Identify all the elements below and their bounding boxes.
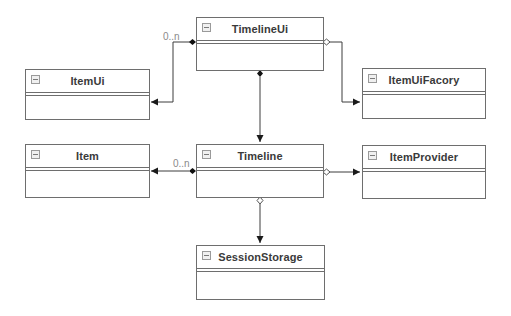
open-diamond-icon bbox=[323, 169, 330, 175]
class-name: ItemUi bbox=[26, 75, 149, 87]
class-header: Timeline bbox=[197, 145, 323, 168]
filled-diamond-icon bbox=[257, 70, 263, 77]
open-diamond-icon bbox=[257, 197, 263, 204]
class-timeline[interactable]: Timeline bbox=[196, 144, 324, 198]
connector-timeline-itemprovider[interactable] bbox=[323, 169, 360, 175]
attributes-compartment bbox=[197, 168, 323, 171]
multiplicity-label-timelineui-itemui: 0..n bbox=[163, 31, 180, 42]
class-sessionstorage[interactable]: SessionStorage bbox=[196, 245, 325, 300]
filled-diamond-icon bbox=[189, 39, 196, 45]
connector-timeline-sessionstorage[interactable] bbox=[257, 197, 263, 243]
attributes-compartment bbox=[26, 168, 149, 171]
attributes-compartment bbox=[197, 41, 323, 44]
attributes-compartment bbox=[26, 93, 149, 96]
class-header: ItemProvider bbox=[363, 146, 485, 169]
class-header: ItemUiFacory bbox=[363, 69, 485, 92]
class-itemprovider[interactable]: ItemProvider bbox=[362, 145, 486, 199]
class-itemuifacory[interactable]: ItemUiFacory bbox=[362, 68, 486, 119]
filled-diamond-icon bbox=[189, 168, 196, 174]
class-header: Item bbox=[26, 145, 149, 168]
open-diamond-icon bbox=[323, 39, 330, 45]
attributes-compartment bbox=[197, 269, 324, 272]
class-name: SessionStorage bbox=[197, 251, 324, 263]
class-item[interactable]: Item bbox=[25, 144, 150, 198]
attributes-compartment bbox=[363, 92, 485, 95]
class-header: TimelineUi bbox=[197, 18, 323, 41]
multiplicity-label-timeline-item: 0..n bbox=[173, 158, 190, 169]
connector-timelineui-timeline[interactable] bbox=[257, 70, 263, 142]
class-header: ItemUi bbox=[26, 70, 149, 93]
connector-timelineui-itemui[interactable] bbox=[151, 39, 196, 102]
class-name: ItemProvider bbox=[363, 151, 485, 163]
class-timelineui[interactable]: TimelineUi bbox=[196, 17, 324, 71]
class-name: TimelineUi bbox=[197, 23, 323, 35]
class-header: SessionStorage bbox=[197, 246, 324, 269]
class-itemui[interactable]: ItemUi bbox=[25, 69, 150, 120]
class-name: Timeline bbox=[197, 150, 323, 162]
connector-timelineui-itemuifacory[interactable] bbox=[323, 39, 360, 102]
uml-class-diagram: 0..n 0..n TimelineUi ItemUi ItemUiFacory… bbox=[0, 0, 511, 316]
class-name: Item bbox=[26, 150, 149, 162]
attributes-compartment bbox=[363, 169, 485, 172]
class-name: ItemUiFacory bbox=[363, 74, 485, 86]
